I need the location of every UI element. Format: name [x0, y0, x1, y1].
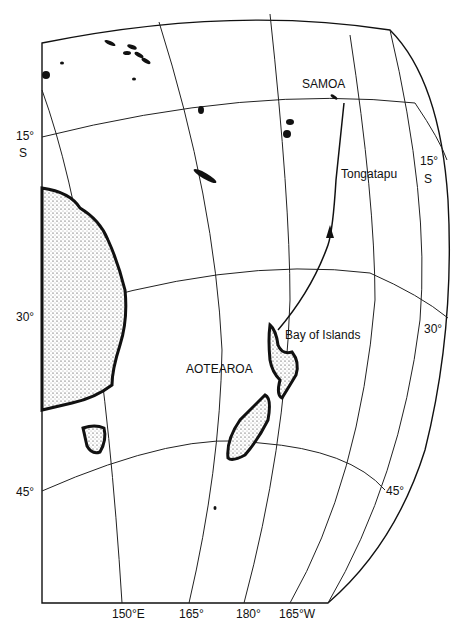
- label-aotearoa: AOTEAROA: [186, 362, 253, 376]
- label-tongatapu: Tongatapu: [341, 167, 397, 181]
- lat-label-left-15-s: S: [19, 146, 27, 160]
- lon-label-180: 180°: [236, 607, 261, 621]
- map-canvas: [0, 0, 461, 633]
- label-samoa: SAMOA: [302, 77, 345, 91]
- lat-label-left-15: 15°: [16, 129, 34, 143]
- lat-label-left-45: 45°: [16, 485, 34, 499]
- tasmania-island: [83, 426, 105, 453]
- longitude-line-165e: [159, 22, 222, 603]
- lon-label-150e: 150°E: [112, 607, 145, 621]
- lat-label-left-30: 30°: [16, 310, 34, 324]
- lat-label-right-15-s: S: [424, 172, 432, 186]
- lon-label-165w: 165°W: [279, 607, 315, 621]
- label-bay-of-islands: Bay of Islands: [285, 328, 360, 342]
- lat-label-right-45: 45°: [386, 484, 404, 498]
- lat-label-right-15: 15°: [420, 154, 438, 168]
- lon-label-165e: 165°: [179, 607, 204, 621]
- new-zealand-south-island: [228, 395, 270, 459]
- australia-landmass: [42, 188, 126, 410]
- lat-label-right-30: 30°: [424, 322, 442, 336]
- longitude-line-165w: [290, 35, 375, 603]
- longitude-line-180: [244, 14, 290, 603]
- route-arrow-icon: [326, 225, 334, 238]
- latitude-line-15s: [42, 98, 447, 160]
